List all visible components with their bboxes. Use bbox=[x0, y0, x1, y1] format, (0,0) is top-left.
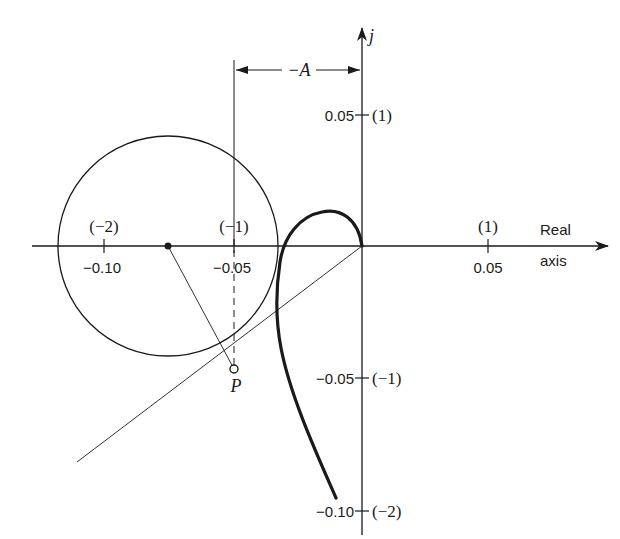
real-tick-pos005-scaled-label: (1) bbox=[478, 217, 498, 236]
point-p-label: P bbox=[230, 376, 242, 396]
imag-tick-pos005-label: 0.05 bbox=[325, 107, 354, 124]
real-tick-neg005-scaled-label: (−1) bbox=[219, 217, 248, 236]
imag-axis-label: j bbox=[367, 26, 374, 46]
dimension-label: −A bbox=[287, 60, 311, 80]
real-axis-label-line2: axis bbox=[540, 252, 567, 269]
real-tick-neg010-label: −0.10 bbox=[83, 259, 121, 276]
nyquist-curve bbox=[277, 211, 362, 498]
real-tick-pos005-label: 0.05 bbox=[473, 259, 502, 276]
imag-tick-neg010-label: −0.10 bbox=[316, 503, 354, 520]
nyquist-diagram: −A P (−2) −0.10 (−1) −0.05 (1) 0.05 Real… bbox=[0, 0, 620, 539]
imag-tick-neg005-label: −0.05 bbox=[316, 370, 354, 387]
imag-tick-neg010-scaled-label: (−2) bbox=[372, 502, 401, 521]
real-axis-label-line1: Real bbox=[540, 221, 571, 238]
imag-tick-pos005-scaled-label: (1) bbox=[372, 106, 392, 125]
imag-tick-neg005-scaled-label: (−1) bbox=[372, 369, 401, 388]
tangent-line bbox=[77, 246, 362, 462]
real-tick-neg005-label: −0.05 bbox=[213, 259, 251, 276]
real-tick-neg010-scaled-label: (−2) bbox=[89, 217, 118, 236]
tangent-point-p bbox=[230, 365, 238, 373]
